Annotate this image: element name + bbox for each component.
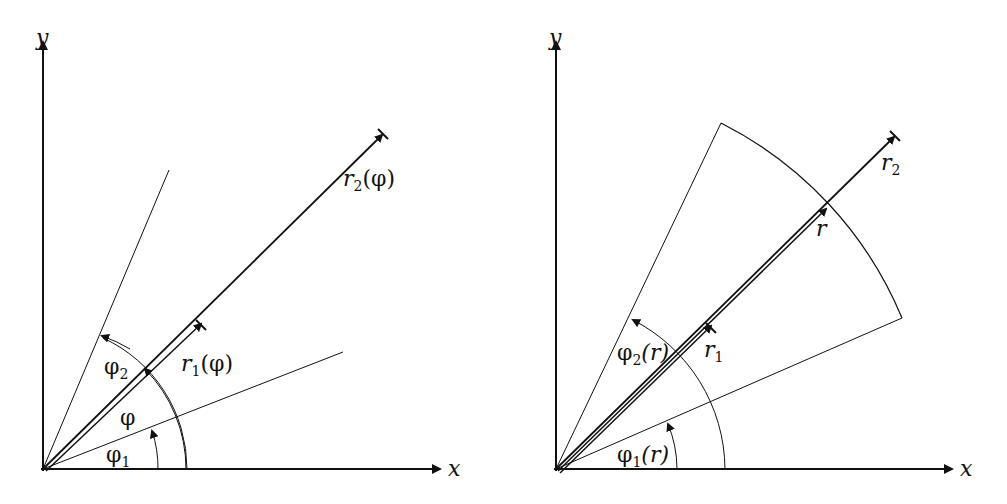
phi1-label: φ1 — [106, 442, 130, 470]
r1-ray-inner — [46, 324, 201, 471]
phi1-r-arc — [668, 424, 677, 469]
phi2-label: φ2 — [104, 354, 128, 382]
r1-end-tick — [706, 323, 716, 333]
r-label: r — [816, 216, 828, 241]
phi-arc — [145, 369, 186, 469]
r2-ray — [556, 137, 894, 469]
r1-phi-label: r1(φ) — [181, 351, 233, 379]
x-axis-label: x — [960, 456, 973, 481]
phi1-r-label: φ1(r) — [617, 442, 669, 470]
phi-label: φ — [120, 405, 135, 430]
phi1-r-boundary-ray — [556, 318, 902, 469]
phi2-boundary-ray — [43, 170, 169, 469]
x-axis-label: x — [448, 456, 461, 481]
phi2-r-label: φ2(r) — [617, 340, 669, 368]
phi2-arc-head — [102, 336, 130, 349]
sector-outer-arc — [721, 123, 902, 318]
r1-label: r1 — [704, 337, 723, 365]
y-axis-label: y — [35, 25, 49, 50]
r-ray-inner-a — [558, 209, 826, 471]
polar-region-diagram: y x r2(φ) r1(φ) φ2 φ φ1 — [0, 0, 1007, 504]
left-panel: y x r2(φ) r1(φ) φ2 φ φ1 — [35, 25, 461, 481]
y-axis-label: y — [548, 25, 562, 50]
r2-ray — [43, 135, 382, 469]
r1-end-tick — [196, 320, 206, 330]
right-panel: y x r2 r r1 φ2(r) φ1(r) — [548, 25, 973, 481]
phi2-r-boundary-ray — [556, 123, 721, 469]
r-ray-inner-b — [560, 326, 711, 473]
phi1-arc — [152, 431, 158, 469]
r2-label: r2 — [881, 150, 900, 178]
r2-phi-label: r2(φ) — [343, 166, 395, 194]
